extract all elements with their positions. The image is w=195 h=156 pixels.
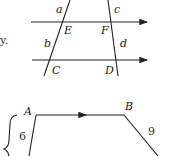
label-F: F bbox=[100, 24, 109, 37]
label-E: E bbox=[63, 24, 72, 37]
label-B: B bbox=[124, 100, 133, 113]
left-side bbox=[29, 115, 36, 156]
label-b: b bbox=[44, 37, 51, 50]
label-D: D bbox=[104, 64, 114, 77]
bottom-diagram: A B 6 9 bbox=[4, 100, 158, 156]
label-d: d bbox=[120, 37, 127, 50]
length-right: 9 bbox=[148, 125, 155, 138]
brace-icon bbox=[4, 115, 17, 156]
top-diagram: a c E F b d C D bbox=[31, 0, 147, 77]
length-left: 6 bbox=[19, 130, 26, 143]
geometry-figure: y. a c E F b d C D A B 6 9 bbox=[0, 0, 195, 156]
label-C: C bbox=[52, 64, 61, 77]
label-c: c bbox=[114, 3, 120, 16]
label-a: a bbox=[56, 3, 63, 16]
label-A: A bbox=[23, 105, 32, 118]
fragment-text: y. bbox=[0, 34, 8, 47]
